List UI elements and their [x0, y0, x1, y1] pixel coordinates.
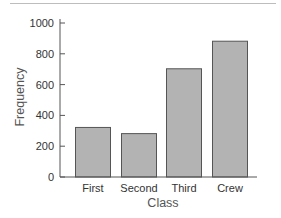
- y-tick-label: 1000: [30, 17, 54, 29]
- y-tick-label: 0: [48, 171, 54, 183]
- bar-chart: 02004006008001000 FirstSecondThirdCrew F…: [0, 0, 281, 218]
- y-tick-label: 800: [36, 48, 54, 60]
- bars: [76, 41, 248, 177]
- y-tick-label: 400: [36, 109, 54, 121]
- x-axis: FirstSecondThirdCrew: [60, 177, 257, 194]
- x-tick-label: Crew: [217, 182, 243, 194]
- x-tick-label: Second: [120, 182, 157, 194]
- bar-third: [167, 69, 202, 177]
- bar-second: [122, 134, 157, 177]
- x-tick-label: Third: [171, 182, 196, 194]
- y-axis-title: Frequency: [13, 67, 27, 127]
- bar-first: [76, 127, 111, 177]
- y-axis: 02004006008001000: [30, 17, 65, 183]
- y-tick-label: 200: [36, 140, 54, 152]
- x-axis-title: Class: [147, 196, 178, 210]
- bar-crew: [213, 41, 248, 177]
- x-tick-label: First: [82, 182, 103, 194]
- y-tick-label: 600: [36, 79, 54, 91]
